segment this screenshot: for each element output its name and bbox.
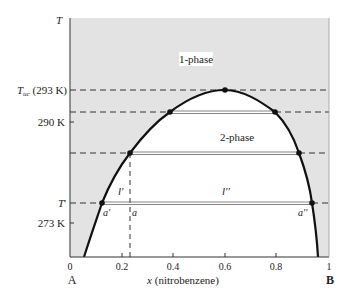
svg-text:0: 0 [68, 261, 73, 272]
point-a-prime [99, 200, 105, 206]
svg-text:0.6: 0.6 [219, 261, 232, 272]
l-prime-label: l' [118, 185, 124, 197]
tuc-label: Tuc (293 K) [17, 84, 67, 98]
tprime-label: T' [58, 197, 66, 209]
one-phase-label: 1-phase [179, 53, 213, 65]
a-label: a [132, 207, 137, 218]
a-prime-label: a' [103, 207, 111, 218]
l-double-prime-label: l'' [222, 185, 230, 197]
component-a-label: A [68, 273, 77, 287]
a-double-prime-label: a'' [298, 207, 308, 218]
y-axis-label: T [56, 14, 63, 26]
critical-point [222, 87, 228, 93]
x-tick-labels: 0 0.2 0.4 0.6 0.8 1 [68, 261, 332, 272]
svg-text:1: 1 [327, 261, 332, 272]
point-a-double-prime [309, 200, 315, 206]
svg-text:0.8: 0.8 [270, 261, 283, 272]
x-axis-label: x (nitrobenzene) [146, 274, 219, 287]
svg-text:0.2: 0.2 [116, 261, 129, 272]
t273-label: 273 K [38, 217, 65, 229]
t290-label: 290 K [38, 116, 65, 128]
svg-text:0.4: 0.4 [167, 261, 180, 272]
component-b-label: B [326, 273, 334, 287]
phase-diagram: T Tuc (293 K) 290 K T' 273 K 0 0.2 0.4 0… [0, 0, 350, 298]
two-phase-label: 2-phase [220, 131, 254, 143]
